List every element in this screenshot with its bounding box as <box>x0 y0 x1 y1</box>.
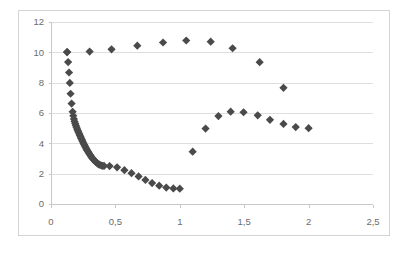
data-marker <box>279 120 287 128</box>
x-tick-label: 0 <box>48 216 53 227</box>
data-marker <box>120 166 128 174</box>
data-marker <box>162 184 170 192</box>
data-marker <box>279 84 287 92</box>
data-marker <box>141 176 149 184</box>
x-tick-label: 1 <box>177 216 182 227</box>
data-marker <box>106 162 114 170</box>
data-marker <box>148 179 156 187</box>
chart-container: 024681012 00,511,522,5 <box>0 0 407 256</box>
data-marker <box>201 125 209 133</box>
x-axis-tick-labels: 00,511,522,5 <box>48 216 379 227</box>
data-marker <box>207 38 215 46</box>
y-tick-label: 4 <box>39 138 44 149</box>
data-marker <box>86 47 94 55</box>
y-tick-label: 8 <box>39 77 44 88</box>
series-descending-branch <box>63 48 184 193</box>
data-marker <box>155 182 163 190</box>
data-marker <box>113 163 121 171</box>
y-tick-label: 6 <box>39 107 44 118</box>
data-marker <box>134 172 142 180</box>
data-marker <box>65 68 73 76</box>
data-marker <box>182 36 190 44</box>
data-marker <box>227 108 235 116</box>
data-marker <box>63 48 71 56</box>
data-marker <box>305 124 313 132</box>
y-tick-label: 12 <box>33 16 44 27</box>
data-marker <box>64 58 72 66</box>
y-tick-label: 10 <box>33 47 44 58</box>
data-marker <box>127 169 135 177</box>
data-marker <box>66 79 74 87</box>
gridlines-group <box>51 23 373 175</box>
data-marker <box>229 44 237 52</box>
y-tick-label: 0 <box>39 198 44 209</box>
series-lower-right-branch <box>189 108 313 156</box>
data-marker <box>159 38 167 46</box>
y-axis-tick-labels: 024681012 <box>33 16 44 209</box>
data-marker <box>189 148 197 156</box>
data-marker <box>256 58 264 66</box>
x-tick-label: 2 <box>306 216 311 227</box>
data-marker <box>66 90 74 98</box>
data-point-markers <box>63 36 313 192</box>
data-marker <box>239 108 247 116</box>
data-marker <box>68 99 76 107</box>
axes-group <box>49 23 374 208</box>
data-marker <box>176 185 184 193</box>
x-tick-label: 2,5 <box>366 216 379 227</box>
scatter-plot: 024681012 00,511,522,5 <box>0 0 407 256</box>
data-marker <box>292 123 300 131</box>
data-marker <box>133 42 141 50</box>
y-tick-label: 2 <box>39 168 44 179</box>
x-tick-label: 0,5 <box>109 216 122 227</box>
data-marker <box>254 111 262 119</box>
x-tick-label: 1,5 <box>238 216 251 227</box>
data-marker <box>266 116 274 124</box>
